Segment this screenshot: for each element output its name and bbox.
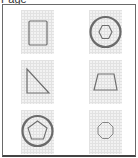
tile-octagon[interactable] <box>89 110 122 154</box>
trapezoid-icon <box>89 60 122 104</box>
tile-trapezoid[interactable] <box>89 60 122 104</box>
tile-rectangle[interactable] <box>21 10 54 54</box>
octagon-icon <box>89 110 122 154</box>
rectangle-icon <box>21 10 54 54</box>
tile-hexagon[interactable] <box>89 10 122 54</box>
shapes-card <box>2 4 136 157</box>
tile-pentagon[interactable] <box>21 110 54 154</box>
pentagon-in-circle-icon <box>21 110 54 154</box>
tile-triangle[interactable] <box>21 60 54 104</box>
hexagon-in-circle-icon <box>89 10 122 54</box>
right-triangle-icon <box>21 60 54 104</box>
